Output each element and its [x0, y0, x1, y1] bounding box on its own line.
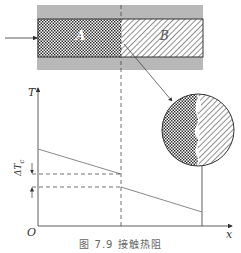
- contact-resistance-diagram: [0, 0, 241, 253]
- material-b-label: B: [160, 29, 169, 43]
- temperature-line-a: [38, 149, 121, 174]
- magnified-interface-circle: [160, 92, 238, 168]
- temperature-line-b: [121, 187, 202, 212]
- material-bar: [38, 19, 203, 57]
- delta-tc-label: ΔTc: [13, 160, 26, 176]
- material-a-label: A: [76, 29, 85, 43]
- y-axis-label: T: [28, 86, 35, 99]
- figure-caption: 图 7.9 接触热阻: [0, 236, 241, 251]
